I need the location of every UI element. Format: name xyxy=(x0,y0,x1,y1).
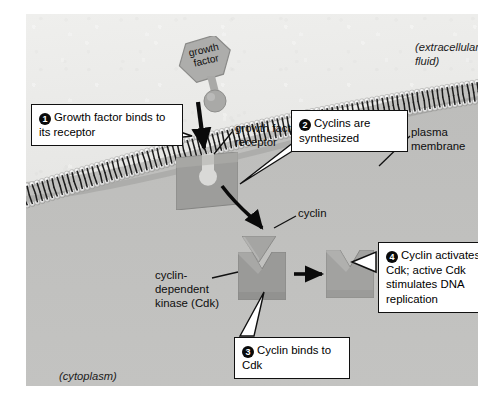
callout-3-tail xyxy=(240,292,264,336)
callout-step-3-text: Cyclin binds to Cdk xyxy=(242,344,331,371)
cyclin-label: cyclin xyxy=(298,207,326,221)
cyclin-leader xyxy=(274,216,296,228)
synthesis-arrow xyxy=(222,186,262,228)
extracellular-fluid-label: (extracellular fluid) xyxy=(415,40,478,68)
step-number-4: 4 xyxy=(386,251,398,263)
callout-step-2: 2Cyclins are synthesized xyxy=(291,110,408,152)
cell-signaling-diagram: growth factor xyxy=(0,0,492,400)
callout-4-tail xyxy=(352,252,376,272)
callout-step-4: 4Cyclin activates Cdk; active Cdk stimul… xyxy=(378,242,478,313)
callout-step-1: 1Growth factor binds to its receptor xyxy=(31,104,183,146)
illustration-plate: growth factor xyxy=(26,14,478,386)
cdk-label: cyclin- dependent kinase (Cdk) xyxy=(155,269,241,311)
step-number-1: 1 xyxy=(39,113,51,125)
callout-step-1-text: Growth factor binds to its receptor xyxy=(39,111,165,138)
cytoplasm-label: (cytoplasm) xyxy=(59,369,117,383)
plasma-membrane-label: plasma membrane xyxy=(411,126,465,154)
step-number-3: 3 xyxy=(242,346,254,358)
callout-step-3: 3Cyclin binds to Cdk xyxy=(234,337,350,379)
step-number-2: 2 xyxy=(299,119,311,131)
callout-step-4-text: Cyclin activates Cdk; active Cdk stimula… xyxy=(386,249,478,305)
connector-lines xyxy=(26,14,478,386)
binding-arrow xyxy=(198,102,204,148)
receptor-leader xyxy=(214,132,232,154)
